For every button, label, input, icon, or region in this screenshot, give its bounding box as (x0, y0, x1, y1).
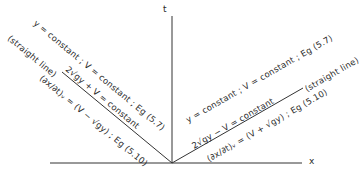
x-axis-label: x (309, 156, 314, 166)
t-axis-label: t (163, 4, 167, 14)
